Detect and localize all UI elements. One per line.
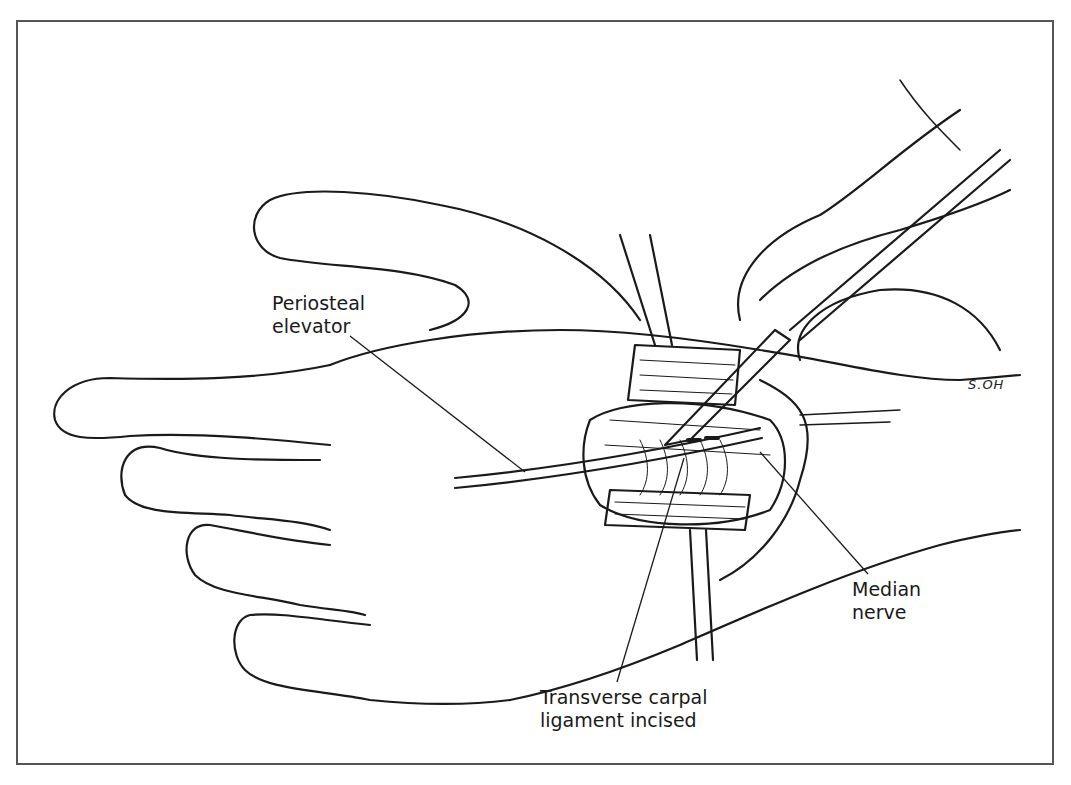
little-finger bbox=[234, 614, 510, 703]
leader-median-nerve bbox=[760, 452, 868, 574]
hand-surgery-illustration bbox=[0, 0, 1071, 785]
incision-edge bbox=[583, 403, 785, 524]
label-periosteal-elevator: Periosteal elevator bbox=[272, 292, 365, 338]
leader-periosteal-elevator bbox=[350, 336, 525, 472]
label-line: ligament incised bbox=[540, 709, 707, 732]
index-finger bbox=[54, 365, 330, 445]
periosteal-elevator-instrument bbox=[455, 428, 762, 488]
label-line: elevator bbox=[272, 315, 365, 338]
artist-signature: S.OH bbox=[968, 377, 1004, 392]
palm-outline bbox=[330, 330, 1020, 380]
ring-finger bbox=[187, 525, 365, 615]
label-line: Periosteal bbox=[272, 292, 365, 315]
label-transverse-carpal-ligament: Transverse carpal ligament incised bbox=[540, 686, 707, 732]
label-line: Median bbox=[852, 578, 921, 601]
label-line: Transverse carpal bbox=[540, 686, 707, 709]
upper-retractor-handle bbox=[620, 235, 672, 345]
lower-retractor-handle bbox=[690, 530, 713, 660]
label-line: nerve bbox=[852, 601, 921, 624]
middle-finger bbox=[121, 447, 330, 530]
surgeon-hand bbox=[738, 110, 1010, 360]
wrist-lower bbox=[510, 530, 1020, 700]
label-median-nerve: Median nerve bbox=[852, 578, 921, 624]
